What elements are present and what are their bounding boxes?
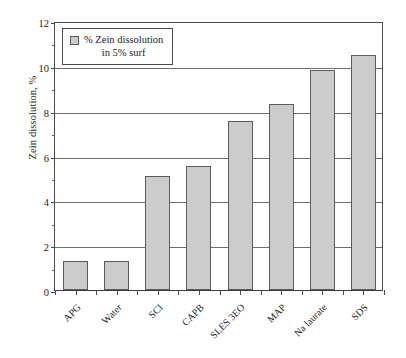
bar bbox=[104, 261, 129, 290]
bar bbox=[186, 166, 211, 290]
legend-swatch-icon bbox=[70, 36, 79, 45]
x-tick-mark bbox=[158, 290, 159, 295]
y-tick-label: 2 bbox=[44, 242, 49, 253]
legend-label-line-2: in 5% surf bbox=[84, 46, 163, 59]
bar bbox=[310, 70, 335, 290]
chart-legend: % Zein dissolution in 5% surf bbox=[62, 28, 173, 65]
y-tick-label: 0 bbox=[44, 287, 49, 298]
bar-chart: Zein dissolution, % 024681012 APGWaterSC… bbox=[0, 0, 406, 358]
x-tick-mark bbox=[322, 290, 323, 295]
x-tick-mark bbox=[117, 290, 118, 295]
y-tick-label: 4 bbox=[44, 197, 49, 208]
y-tick-label: 10 bbox=[39, 62, 50, 73]
y-tick-label: 8 bbox=[44, 107, 49, 118]
x-tick-mark bbox=[343, 290, 344, 295]
y-tick-label: 12 bbox=[39, 18, 50, 29]
x-tick-mark bbox=[199, 290, 200, 295]
x-tick-mark bbox=[240, 290, 241, 295]
bar bbox=[145, 176, 170, 290]
x-tick-mark bbox=[384, 290, 385, 295]
y-axis-title: Zein dissolution, % bbox=[27, 38, 38, 198]
x-tick-mark bbox=[76, 290, 77, 295]
y-tick-label: 6 bbox=[44, 152, 49, 163]
x-tick-mark bbox=[55, 290, 56, 295]
bar bbox=[63, 261, 88, 290]
x-tick-mark bbox=[363, 290, 364, 295]
x-tick-mark bbox=[178, 290, 179, 295]
bar bbox=[228, 121, 253, 290]
x-tick-mark bbox=[302, 290, 303, 295]
bar bbox=[269, 104, 294, 290]
x-tick-mark bbox=[137, 290, 138, 295]
x-tick-mark bbox=[281, 290, 282, 295]
legend-label: % Zein dissolution in 5% surf bbox=[84, 33, 163, 59]
x-tick-mark bbox=[261, 290, 262, 295]
legend-label-line-1: % Zein dissolution bbox=[84, 33, 163, 46]
x-tick-mark bbox=[96, 290, 97, 295]
x-tick-mark bbox=[220, 290, 221, 295]
bar bbox=[351, 55, 376, 290]
